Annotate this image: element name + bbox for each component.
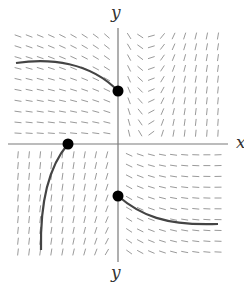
slope-segment [81, 100, 88, 102]
slope-segment [148, 121, 154, 125]
slope-segment [126, 228, 132, 232]
slope-segment [137, 240, 143, 243]
slope-segment [84, 249, 86, 256]
slope-segment [159, 251, 166, 253]
slope-segment [137, 175, 144, 178]
slope-segment [104, 34, 109, 39]
slope-segment [184, 87, 185, 94]
slope-segment [203, 241, 210, 242]
slope-segment [137, 197, 143, 200]
slope-segment [148, 110, 154, 113]
slope-segment [137, 34, 143, 38]
slope-segment [26, 46, 33, 48]
slope-segment [103, 122, 110, 124]
slope-segment [184, 130, 185, 137]
slope-segment [37, 122, 44, 123]
slope-segment [195, 87, 196, 94]
y-axis-label-bottom: y [111, 262, 121, 282]
slope-segment [70, 67, 76, 70]
slope-segment [48, 78, 55, 80]
slope-segment [37, 89, 44, 91]
slope-segment [128, 65, 131, 71]
slope-segment [137, 164, 144, 166]
slope-segment [173, 108, 175, 115]
slope-segment [170, 251, 177, 253]
slope-segment [95, 249, 98, 256]
slope-segment [104, 56, 110, 60]
slope-segment [137, 186, 143, 189]
slope-segment [148, 186, 155, 188]
slope-segment [37, 67, 44, 69]
slope-segment [59, 45, 65, 48]
slope-segment [218, 119, 219, 126]
slope-segment [207, 108, 208, 115]
slope-segment [206, 76, 207, 83]
slope-segment [161, 65, 165, 71]
slope-segment [192, 230, 199, 231]
slope-segment [84, 162, 85, 169]
slope-segment [137, 154, 144, 156]
slope-segment [95, 162, 97, 169]
slope-segment [126, 207, 132, 211]
slope-segment [84, 216, 86, 223]
slope-segment [159, 176, 166, 178]
slope-segment [159, 197, 166, 199]
slope-segment [128, 87, 131, 93]
slope-segment [181, 155, 188, 156]
slope-segment [181, 165, 188, 166]
slope-segment [148, 57, 155, 59]
slope-segment [18, 195, 19, 202]
slope-segment [126, 239, 132, 243]
slope-segment [207, 130, 208, 137]
slope-segment [95, 184, 97, 191]
slope-segment [192, 208, 199, 209]
slope-segment [127, 55, 130, 61]
slope-segment [73, 238, 74, 245]
slope-segment [172, 65, 174, 72]
slope-segment [161, 98, 164, 104]
slope-segment [217, 54, 218, 61]
slope-segment [206, 43, 207, 50]
slope-segment [37, 35, 43, 38]
slope-segment [59, 111, 66, 112]
slope-segment [73, 216, 74, 223]
slope-segment [181, 187, 188, 188]
slope-segment [138, 109, 142, 114]
slope-segment [92, 100, 99, 102]
slope-segment [192, 252, 199, 253]
slope-segment [29, 184, 30, 191]
slope-segment [70, 133, 77, 134]
slope-segment [15, 46, 22, 48]
slope-segment [73, 249, 75, 256]
slope-segment [51, 249, 52, 256]
slope-segment [18, 205, 19, 212]
slope-segment [206, 65, 207, 72]
slope-segment [184, 33, 186, 40]
slope-segment [26, 100, 33, 101]
slope-segment [93, 89, 99, 92]
slope-segment [105, 238, 108, 244]
slope-segment [62, 184, 63, 191]
slope-segment [218, 97, 219, 104]
slope-segment [173, 119, 174, 126]
slope-segment [218, 87, 219, 94]
slope-segment [29, 162, 30, 169]
slope-segment [106, 206, 109, 213]
slope-segment [148, 208, 155, 210]
slope-segment [29, 205, 30, 212]
slope-segment [81, 133, 88, 134]
slope-segment [106, 216, 109, 222]
slope-segment [159, 208, 166, 210]
slope-segment [137, 250, 143, 253]
slope-segment [29, 238, 30, 245]
slope-segment [192, 187, 199, 188]
slope-segment [105, 249, 109, 255]
slope-segment [81, 122, 88, 123]
slope-segment [173, 87, 175, 94]
slope-segment [159, 165, 166, 166]
slope-segment [93, 45, 99, 49]
slope-segment [172, 76, 174, 83]
slope-segment [84, 151, 85, 158]
slope-segment [73, 162, 74, 169]
slope-segment [93, 34, 99, 38]
